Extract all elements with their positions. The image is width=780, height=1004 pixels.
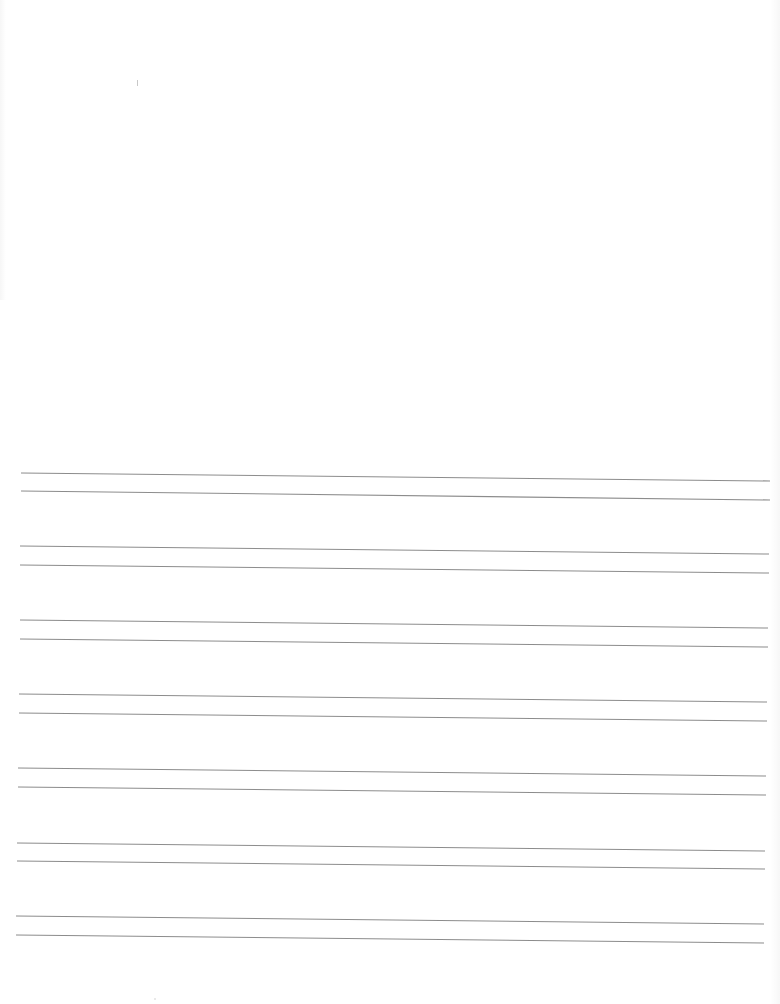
writing-line-pair [18, 768, 766, 795]
writing-line-pair [21, 473, 770, 500]
writing-line-top [20, 546, 769, 554]
writing-line-bottom [18, 787, 766, 795]
scan-mark [154, 998, 156, 1000]
writing-line-bottom [16, 935, 764, 943]
writing-line-pair [19, 694, 767, 721]
ruled-lines [0, 0, 780, 1004]
writing-line-top [17, 843, 765, 851]
writing-line-top [18, 768, 766, 776]
writing-line-bottom [17, 861, 765, 869]
writing-line-bottom [20, 639, 768, 647]
writing-line-top [21, 473, 770, 481]
writing-line-top [20, 620, 768, 628]
lined-paper-page [0, 0, 780, 1004]
scan-mark [137, 80, 138, 86]
writing-line-pair [20, 546, 769, 573]
writing-line-pair [16, 916, 764, 943]
writing-line-bottom [20, 565, 769, 573]
writing-line-top [16, 916, 764, 924]
writing-line-top [19, 694, 767, 702]
writing-line-bottom [21, 491, 770, 500]
writing-line-bottom [19, 713, 767, 721]
writing-line-pair [17, 843, 765, 869]
writing-line-pair [20, 620, 768, 647]
